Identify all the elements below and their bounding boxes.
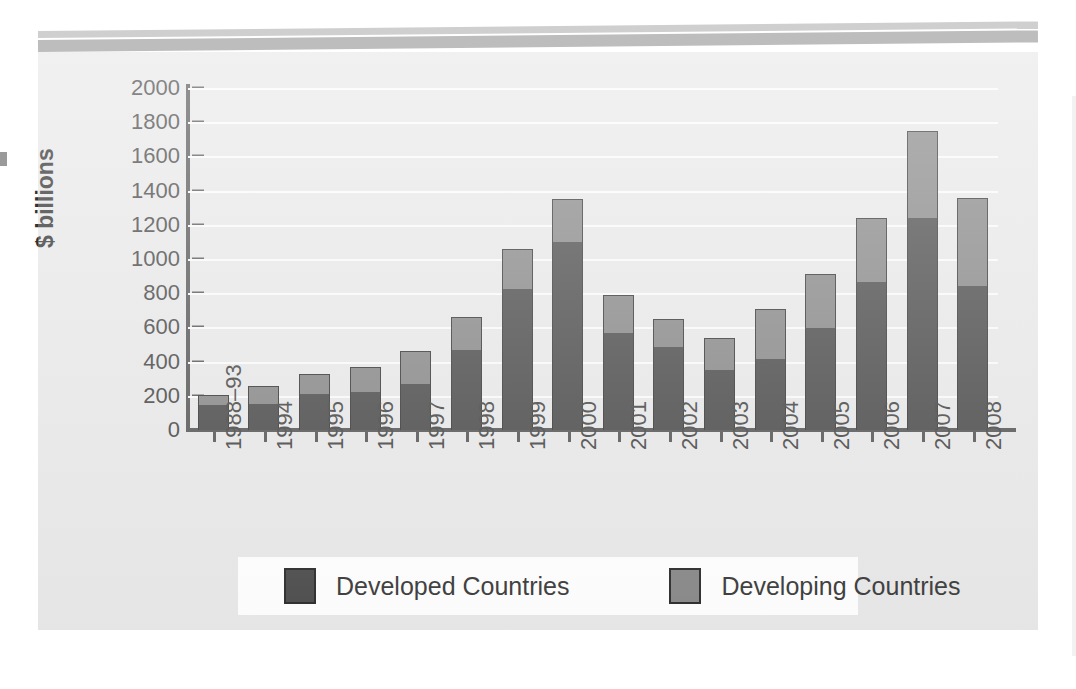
y-axis-tick-labels: 0200400600800100012001400160018002000 [88, 52, 180, 630]
x-axis-tick-mark [720, 430, 723, 442]
x-axis-tick-mark [770, 430, 773, 442]
x-axis-tick-mark [973, 430, 976, 442]
x-axis-tick-mark [922, 430, 925, 442]
x-axis-tick-mark [871, 430, 874, 442]
y-axis-tick-label: 1400 [131, 178, 180, 204]
y-axis-tick-label: 400 [143, 349, 180, 375]
x-axis-tick-label: 2008 [981, 401, 1007, 450]
y-axis-tick-label: 1600 [131, 143, 180, 169]
x-axis-tick-label: 1999 [525, 401, 551, 450]
x-axis-tick-mark [517, 430, 520, 442]
y-axis-tick-label: 600 [143, 314, 180, 340]
x-axis-tick-mark [315, 430, 318, 442]
y-axis-tick-label: 1800 [131, 109, 180, 135]
bar-segment-developing[interactable] [603, 295, 634, 333]
bar-segment-developing[interactable] [755, 309, 786, 359]
x-axis-tick-mark [669, 430, 672, 442]
x-axis-tick-mark [821, 430, 824, 442]
x-axis-tick-mark [365, 430, 368, 442]
x-axis-tick-mark [466, 430, 469, 442]
bar-segment-developing[interactable] [653, 319, 684, 347]
y-axis-title: $ billions [32, 148, 59, 248]
x-axis-tick-label: 2005 [829, 401, 855, 450]
legend-swatch-developing [669, 568, 701, 604]
legend-label: Developed Countries [336, 572, 569, 601]
x-axis-tick-label: 1988–93 [221, 364, 247, 450]
y-axis-tick-label: 200 [143, 383, 180, 409]
gridline [188, 191, 998, 193]
x-axis-tick-mark [213, 430, 216, 442]
bar-segment-developing[interactable] [502, 249, 533, 289]
x-axis-tick-mark [618, 430, 621, 442]
bar-column[interactable] [957, 198, 988, 430]
x-axis-tick-label: 2007 [930, 401, 956, 450]
y-axis-tick-label: 1200 [131, 212, 180, 238]
bar-segment-developing[interactable] [350, 367, 381, 393]
bar-segment-developing[interactable] [704, 338, 735, 370]
y-axis-tick-label: 800 [143, 280, 180, 306]
x-axis-tick-label: 1998 [474, 401, 500, 450]
x-axis-tick-label: 1994 [272, 401, 298, 450]
y-axis-tick-label: 2000 [131, 75, 180, 101]
x-axis-tick-label: 2001 [626, 401, 652, 450]
x-axis-tick-label: 2006 [879, 401, 905, 450]
page-right-edge [1072, 96, 1076, 656]
x-axis-tick-mark [416, 430, 419, 442]
chart-figure: $ billions 02004006008001000120014001600… [38, 52, 1038, 630]
scanned-page: $ billions 02004006008001000120014001600… [0, 0, 1076, 689]
x-axis-tick-label: 1995 [323, 401, 349, 450]
bar-column[interactable] [907, 131, 938, 430]
gridline [188, 122, 998, 124]
x-axis-tick-label: 2004 [778, 401, 804, 450]
page-edge-mark [0, 152, 7, 166]
bar-segment-developing[interactable] [552, 199, 583, 242]
y-axis-tick-label: 0 [168, 417, 180, 443]
plot-area [188, 88, 998, 430]
x-axis-tick-mark [568, 430, 571, 442]
y-axis-tick-label: 1000 [131, 246, 180, 272]
legend-label: Developing Countries [721, 572, 960, 601]
bar-segment-developing[interactable] [805, 274, 836, 328]
x-axis-tick-label: 1997 [424, 401, 450, 450]
bar-segment-developing[interactable] [856, 218, 887, 282]
bar-segment-developing[interactable] [400, 351, 431, 383]
gridline [188, 156, 998, 158]
bar-column[interactable] [856, 218, 887, 430]
bar-column[interactable] [552, 199, 583, 430]
legend-swatch-developed [284, 568, 316, 604]
legend-item[interactable]: Developing Countries [669, 568, 960, 604]
bar-segment-developing[interactable] [451, 317, 482, 349]
x-axis-tick-label: 2003 [728, 401, 754, 450]
x-axis-tick-label: 1996 [373, 401, 399, 450]
legend-item[interactable]: Developed Countries [284, 568, 569, 604]
x-axis-tick-label: 2002 [677, 401, 703, 450]
bar-segment-developing[interactable] [957, 198, 988, 286]
bar-segment-developing[interactable] [299, 374, 330, 394]
bar-segment-developing[interactable] [907, 131, 938, 218]
chart-legend: Developed CountriesDeveloping Countries [238, 557, 858, 615]
bar-segment-developed[interactable] [907, 218, 938, 430]
x-axis-tick-mark [264, 430, 267, 442]
x-axis-tick-label: 2000 [576, 401, 602, 450]
gridline [188, 88, 998, 90]
